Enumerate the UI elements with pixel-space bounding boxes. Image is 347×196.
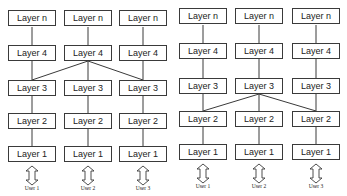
layer-box: Layer 2 [119, 113, 167, 129]
layer-box: Layer 3 [235, 78, 283, 94]
layer-box: Layer n [119, 10, 167, 26]
layer-box: Layer n [64, 10, 112, 26]
layer-box: Layer 2 [179, 111, 227, 127]
layer-box: Layer 4 [235, 43, 283, 59]
layer-box: Layer 2 [64, 113, 112, 129]
user-label: User 1 [12, 185, 52, 191]
layer-box: Layer 4 [179, 43, 227, 59]
layer-box: Layer n [235, 8, 283, 24]
user-label: User 3 [123, 185, 163, 191]
layer-box: Layer 3 [8, 80, 56, 96]
layer-box: Layer 2 [8, 113, 56, 129]
layer-box: Layer n [292, 8, 340, 24]
layer-box: Layer 3 [64, 80, 112, 96]
layer-box: Layer 3 [119, 80, 167, 96]
layer-box: Layer 1 [119, 146, 167, 162]
layer-box: Layer n [8, 10, 56, 26]
user-label: User 1 [183, 183, 223, 189]
layer-box: Layer 4 [119, 45, 167, 61]
layer-box: Layer 1 [64, 146, 112, 162]
layer-box: Layer 2 [292, 111, 340, 127]
layer-box: Layer 2 [235, 111, 283, 127]
layer-box: Layer 1 [235, 144, 283, 160]
user-label: User 3 [296, 183, 336, 189]
layer-box: Layer 3 [292, 78, 340, 94]
layer-box: Layer 3 [179, 78, 227, 94]
user-label: User 2 [239, 183, 279, 189]
layer-box: Layer 1 [292, 144, 340, 160]
layer-box: Layer 4 [292, 43, 340, 59]
layer-box: Layer n [179, 8, 227, 24]
connector-lines [0, 0, 347, 196]
layer-box: Layer 1 [179, 144, 227, 160]
layer-box: Layer 4 [8, 45, 56, 61]
user-label: User 2 [68, 185, 108, 191]
layer-box: Layer 4 [64, 45, 112, 61]
layered-architecture-figure: Layer n Layer n Layer n Layer 4 Layer 4 … [0, 0, 347, 196]
layer-box: Layer 1 [8, 146, 56, 162]
